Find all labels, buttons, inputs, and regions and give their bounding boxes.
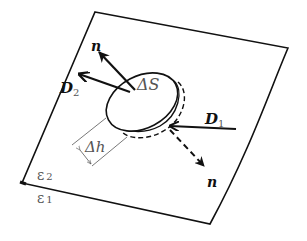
d1-arrow	[170, 126, 236, 129]
epsilon-2-label: ε2	[37, 167, 53, 183]
d2-label: D2	[59, 79, 79, 98]
normal-arrow-top	[99, 52, 135, 90]
epsilon-1-label: ε1	[37, 190, 53, 206]
diagram-canvas: n D2 ΔS D1 n Δh ε2 ε1	[0, 0, 307, 241]
n-top-label: n	[91, 38, 101, 54]
normal-arrow-bottom	[170, 130, 204, 166]
pillbox-top-surface	[96, 61, 188, 143]
delta-s-label: ΔS	[136, 75, 160, 94]
delta-h-label: Δh	[84, 138, 106, 156]
n-bottom-label: n	[207, 174, 217, 190]
d1-label: D1	[204, 110, 224, 129]
